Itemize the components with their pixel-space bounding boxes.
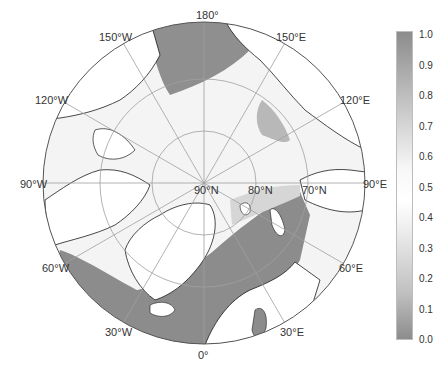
- colorbar-tick-label: 0.4: [419, 213, 433, 223]
- colorbar-tick-label: 0.1: [419, 305, 433, 315]
- colorbar-tick-label: 0.8: [419, 91, 433, 101]
- latitude-label: 70°N: [302, 185, 327, 196]
- longitude-label: 60°E: [339, 263, 363, 274]
- longitude-label: 120°W: [35, 95, 68, 106]
- longitude-label: 90°W: [20, 179, 47, 190]
- colorbar-tick-label: 0.3: [419, 244, 433, 254]
- colorbar-tick-label: 0.7: [419, 122, 433, 132]
- longitude-label: 0°: [198, 350, 209, 361]
- longitude-label: 120°E: [340, 95, 370, 106]
- colorbar-tick-label: 0.9: [419, 61, 433, 71]
- longitude-label: 30°E: [280, 327, 304, 338]
- latitude-label: 90°N: [194, 185, 219, 196]
- colorbar-tick-label: 0.0: [419, 335, 433, 345]
- longitude-label: 150°W: [99, 32, 132, 43]
- longitude-label: 60°W: [42, 263, 69, 274]
- colorbar-tick-label: 0.2: [419, 274, 433, 284]
- latitude-label: 80°N: [248, 185, 273, 196]
- longitude-label: 180°: [196, 10, 219, 21]
- longitude-label: 90°E: [363, 179, 387, 190]
- longitude-label: 150°E: [276, 32, 306, 43]
- colorbar: [396, 31, 413, 340]
- colorbar-tick-label: 0.6: [419, 152, 433, 162]
- colorbar-tick-label: 1.0: [419, 30, 433, 40]
- colorbar-tick-label: 0.5: [419, 183, 433, 193]
- longitude-label: 30°W: [105, 327, 132, 338]
